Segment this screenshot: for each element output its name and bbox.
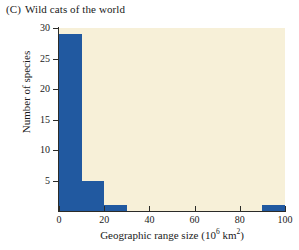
y-axis-tick	[53, 59, 59, 60]
x-axis-tick-label: 40	[129, 214, 169, 225]
histogram-bar	[82, 181, 105, 212]
x-axis-tick	[104, 206, 105, 212]
x-axis-tick-label: 0	[39, 214, 79, 225]
x-axis-tick	[285, 206, 286, 212]
figure-panel-c: (C)Wild cats of the world 51015202530 02…	[0, 0, 299, 250]
x-axis-label: Geographic range size (106 km2)	[59, 229, 285, 242]
x-axis-label-text: Geographic range size (	[100, 229, 205, 241]
x-axis-tick-label: 100	[265, 214, 299, 225]
y-axis-tick	[53, 150, 59, 151]
x-axis-tick	[240, 206, 241, 212]
y-axis-tick	[53, 28, 59, 29]
y-axis-tick-label: 5	[28, 176, 50, 186]
panel-letter: (C)	[6, 3, 21, 15]
x-axis-tick-label: 20	[84, 214, 124, 225]
x-axis-tick	[59, 206, 60, 212]
y-axis-label: Number of species	[20, 17, 32, 167]
panel-title: (C)Wild cats of the world	[6, 3, 125, 16]
x-axis-tick-label: 60	[175, 214, 215, 225]
x-axis-line	[58, 211, 286, 212]
x-axis-label-base: 10	[205, 229, 216, 241]
histogram-bar	[59, 34, 82, 211]
x-axis-label-unit: km	[220, 229, 237, 241]
x-axis-tick	[149, 206, 150, 212]
plot-area	[59, 28, 285, 211]
y-axis-tick	[53, 120, 59, 121]
x-axis-tick-label: 80	[220, 214, 260, 225]
x-axis-tick	[195, 206, 196, 212]
y-axis-tick	[53, 89, 59, 90]
y-axis-tick	[53, 181, 59, 182]
panel-title-text: Wild cats of the world	[25, 3, 125, 15]
x-axis-label-close: )	[240, 229, 244, 241]
